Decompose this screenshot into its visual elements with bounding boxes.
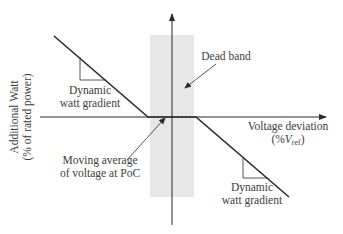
moving-average-line1: Moving average bbox=[54, 154, 146, 167]
x-axis-sub: ref bbox=[292, 138, 301, 147]
x-axis-prefix: (% bbox=[271, 133, 284, 145]
gradient-left-line1: Dynamic bbox=[52, 84, 128, 97]
gradient-right-line2: watt gradient bbox=[214, 194, 290, 207]
x-axis-var: V bbox=[285, 133, 292, 145]
droop-diagram-canvas bbox=[0, 0, 343, 234]
y-axis-label-line2: (% of rated power) bbox=[21, 73, 34, 160]
y-axis-label: Additional Watt (% of rated power) bbox=[8, 73, 34, 160]
gradient-right-line1: Dynamic bbox=[214, 181, 290, 194]
gradient-left-line2: watt gradient bbox=[52, 97, 128, 110]
moving-average-line2: of voltage at PoC bbox=[54, 167, 146, 180]
x-axis-label-line1: Voltage deviation bbox=[236, 120, 340, 133]
x-axis-suffix: ) bbox=[301, 133, 305, 145]
x-axis-label: Voltage deviation (%Vref) bbox=[236, 120, 340, 149]
dead-band-label: Dead band bbox=[196, 50, 256, 63]
x-axis-label-line2: (%Vref) bbox=[236, 133, 340, 149]
y-axis-label-line1: Additional Watt bbox=[8, 73, 21, 160]
gradient-label-left: Dynamic watt gradient bbox=[52, 84, 128, 110]
moving-average-label: Moving average of voltage at PoC bbox=[54, 154, 146, 180]
gradient-label-right: Dynamic watt gradient bbox=[214, 181, 290, 207]
